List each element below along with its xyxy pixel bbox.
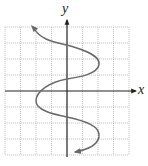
y-axis-label: y bbox=[62, 2, 68, 16]
graph bbox=[0, 0, 148, 166]
x-axis-label: x bbox=[138, 83, 144, 97]
curve-start-arrowhead-icon bbox=[31, 25, 38, 32]
